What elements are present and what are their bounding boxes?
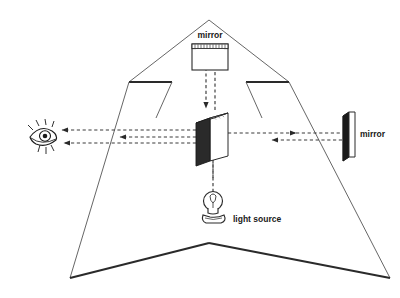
beam-splitter[interactable] <box>196 113 228 166</box>
top-mirror-inner-fill <box>196 49 224 69</box>
top-mirror[interactable] <box>192 44 228 70</box>
bulb-socket <box>202 215 225 223</box>
beam-splitter-back-plate <box>210 113 228 161</box>
right-mirror[interactable] <box>343 112 355 161</box>
light-source-bulb[interactable] <box>202 192 225 224</box>
arrow-enclosure-outline <box>70 20 390 278</box>
optics-diagram-svg: mirror mirror light source <box>0 0 400 298</box>
beam-splitter-front-face <box>196 118 210 166</box>
eye-pupil <box>43 134 48 139</box>
observer-eye[interactable] <box>28 119 57 154</box>
bulb-base <box>208 208 218 214</box>
right-mirror-front-face <box>343 112 349 161</box>
light-source-label: light source <box>233 214 281 224</box>
right-mirror-label: mirror <box>360 129 386 139</box>
diagram-canvas: mirror mirror light source <box>0 0 400 298</box>
right-mirror-side-face <box>349 112 355 157</box>
top-mirror-label: mirror <box>197 30 223 40</box>
